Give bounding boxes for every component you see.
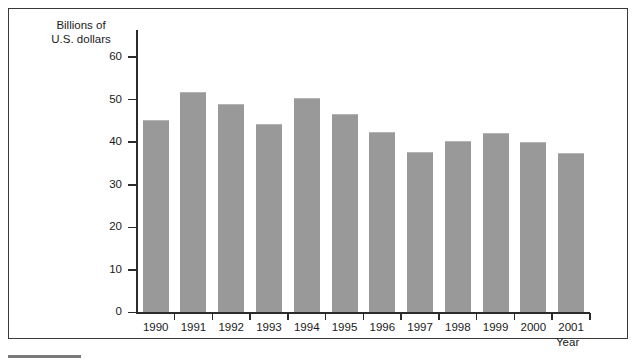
y-tick-label-wrap: 0 (78, 306, 122, 318)
x-tick-mark (514, 313, 516, 320)
y-tick-label-wrap: 10 (78, 264, 122, 276)
y-tick-label-wrap: 20 (78, 221, 122, 233)
x-axis-title: Year (556, 337, 579, 349)
x-tick-mark (212, 313, 214, 320)
y-tick-mark (128, 56, 136, 58)
x-tick-label: 2001 (546, 321, 596, 334)
y-tick-mark (128, 269, 136, 271)
x-tick-mark (325, 313, 327, 320)
y-axis-title-line-2: U.S. dollars (38, 32, 124, 46)
bar (180, 92, 206, 312)
y-tick-mark (128, 312, 136, 314)
y-axis-title-line-1: Billions of (38, 18, 124, 32)
y-axis-line (136, 30, 138, 314)
x-tick-mark (174, 313, 176, 320)
x-tick-mark (363, 313, 365, 320)
y-tick-label-wrap: 30 (78, 179, 122, 191)
bar (369, 132, 395, 313)
bar (445, 141, 471, 312)
y-axis-title: Billions ofU.S. dollars (38, 18, 124, 46)
x-tick-mark (287, 313, 289, 320)
x-tick-mark (551, 313, 553, 320)
y-tick-label: 0 (82, 306, 122, 318)
bar (256, 124, 282, 312)
bar (332, 114, 358, 313)
x-tick-mark (476, 313, 478, 320)
bar (558, 153, 584, 313)
y-tick-label-wrap: 50 (78, 94, 122, 106)
y-tick-label-wrap: 40 (78, 136, 122, 148)
y-tick-label: 60 (82, 51, 122, 63)
y-tick-mark (128, 227, 136, 229)
y-tick-label: 40 (82, 136, 122, 148)
bar (520, 142, 546, 312)
bar (407, 152, 433, 312)
y-tick-label-wrap: 60 (78, 51, 122, 63)
x-tick-mark (400, 313, 402, 320)
y-tick-mark (128, 184, 136, 186)
bar (143, 120, 169, 313)
plot-area: Billions ofU.S. dollars 0102030405060 19… (0, 0, 638, 363)
figure-container: Billions ofU.S. dollars 0102030405060 19… (0, 0, 638, 363)
y-tick-label: 30 (82, 179, 122, 191)
y-tick-label: 10 (82, 264, 122, 276)
y-tick-mark (128, 99, 136, 101)
x-tick-mark (249, 313, 251, 320)
y-tick-label: 20 (82, 221, 122, 233)
y-tick-mark (128, 141, 136, 143)
bar (294, 98, 320, 313)
y-tick-label: 50 (82, 94, 122, 106)
x-tick-mark (589, 313, 591, 320)
x-tick-mark (438, 313, 440, 320)
bar (218, 104, 244, 312)
bar (483, 133, 509, 312)
